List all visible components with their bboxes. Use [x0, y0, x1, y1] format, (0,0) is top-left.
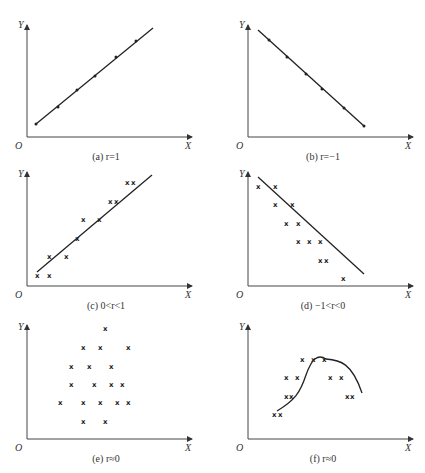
svg-text:x: x — [69, 381, 74, 389]
svg-text:O: O — [15, 289, 22, 300]
svg-text:Y: Y — [239, 321, 246, 332]
svg-text:Y: Y — [239, 168, 246, 179]
svg-text:x: x — [284, 220, 289, 228]
caption-e: (e) r≈0 — [92, 453, 119, 465]
svg-text:x: x — [81, 399, 86, 407]
svg-text:O: O — [236, 289, 243, 300]
caption-a: (a) r=1 — [92, 151, 120, 163]
svg-text:x: x — [350, 393, 355, 401]
svg-text:x: x — [47, 253, 52, 261]
panel-d: Y X O xxx xxx xxx xxx (d) −1<r<0 — [236, 168, 413, 312]
svg-text:x: x — [324, 257, 329, 265]
panel-c: Y X O xxx xxx xxx xx (c) 0<r<1 — [15, 168, 192, 312]
svg-text:x: x — [256, 183, 261, 191]
svg-text:x: x — [87, 363, 92, 371]
svg-text:X: X — [404, 140, 412, 151]
svg-text:X: X — [184, 140, 192, 151]
svg-text:x: x — [295, 374, 300, 382]
svg-text:Y: Y — [239, 19, 246, 30]
svg-text:x: x — [125, 179, 130, 187]
svg-text:x: x — [109, 381, 114, 389]
svg-text:x: x — [58, 399, 63, 407]
svg-text:x: x — [318, 257, 323, 265]
svg-text:x: x — [296, 220, 301, 228]
svg-text:X: X — [404, 289, 412, 300]
svg-text:x: x — [69, 363, 74, 371]
svg-text:O: O — [236, 442, 243, 453]
svg-text:x: x — [339, 374, 344, 382]
svg-text:x: x — [328, 374, 333, 382]
svg-text:x: x — [35, 272, 40, 280]
svg-text:x: x — [273, 183, 278, 191]
svg-text:x: x — [296, 238, 301, 246]
svg-text:x: x — [273, 201, 278, 209]
svg-text:x: x — [75, 235, 80, 243]
svg-text:X: X — [184, 442, 192, 453]
panel-e: Y X O x xxx xxx xxxx xxxxx xx (e) r≈0 — [15, 321, 192, 465]
svg-text:x: x — [103, 325, 108, 333]
svg-text:x: x — [126, 344, 131, 352]
svg-text:x: x — [278, 411, 283, 419]
svg-text:Y: Y — [18, 321, 25, 332]
svg-text:x: x — [284, 374, 289, 382]
svg-text:x: x — [103, 418, 108, 426]
svg-text:Y: Y — [18, 168, 25, 179]
svg-text:x: x — [120, 381, 125, 389]
svg-text:x: x — [290, 201, 295, 209]
panel-f: Y X O xxx xxxx xxxx xx (f) r≈0 — [236, 321, 413, 465]
svg-text:X: X — [184, 289, 192, 300]
svg-text:x: x — [98, 399, 103, 407]
svg-text:x: x — [64, 253, 69, 261]
svg-text:x: x — [108, 198, 113, 206]
svg-text:x: x — [341, 275, 346, 283]
caption-d: (d) −1<r<0 — [301, 300, 345, 312]
svg-text:O: O — [15, 442, 22, 453]
svg-text:X: X — [404, 442, 412, 453]
svg-text:x: x — [300, 356, 305, 364]
svg-text:x: x — [81, 344, 86, 352]
caption-c: (c) 0<r<1 — [87, 300, 125, 312]
svg-text:Y: Y — [18, 19, 25, 30]
svg-text:x: x — [307, 238, 312, 246]
caption-b: (b) r=−1 — [306, 151, 340, 163]
svg-text:x: x — [114, 198, 119, 206]
svg-text:x: x — [47, 272, 52, 280]
figure: Y X O (a) r=1 Y X O (b) r=−1 Y X O xxx x — [0, 0, 425, 473]
svg-text:x: x — [115, 399, 120, 407]
svg-text:x: x — [131, 179, 136, 187]
panel-b: Y X O (b) r=−1 — [236, 19, 413, 163]
svg-text:x: x — [272, 411, 277, 419]
caption-f: (f) r≈0 — [310, 453, 336, 465]
svg-text:x: x — [97, 216, 102, 224]
svg-text:O: O — [15, 140, 22, 151]
svg-text:x: x — [81, 418, 86, 426]
svg-text:x: x — [109, 363, 114, 371]
svg-text:x: x — [126, 399, 131, 407]
svg-text:O: O — [236, 140, 243, 151]
svg-text:x: x — [92, 381, 97, 389]
panel-a: Y X O (a) r=1 — [15, 19, 192, 163]
svg-text:x: x — [289, 393, 294, 401]
svg-text:x: x — [81, 216, 86, 224]
svg-text:x: x — [322, 356, 327, 364]
svg-text:x: x — [98, 344, 103, 352]
svg-text:x: x — [318, 238, 323, 246]
svg-text:x: x — [311, 356, 316, 364]
